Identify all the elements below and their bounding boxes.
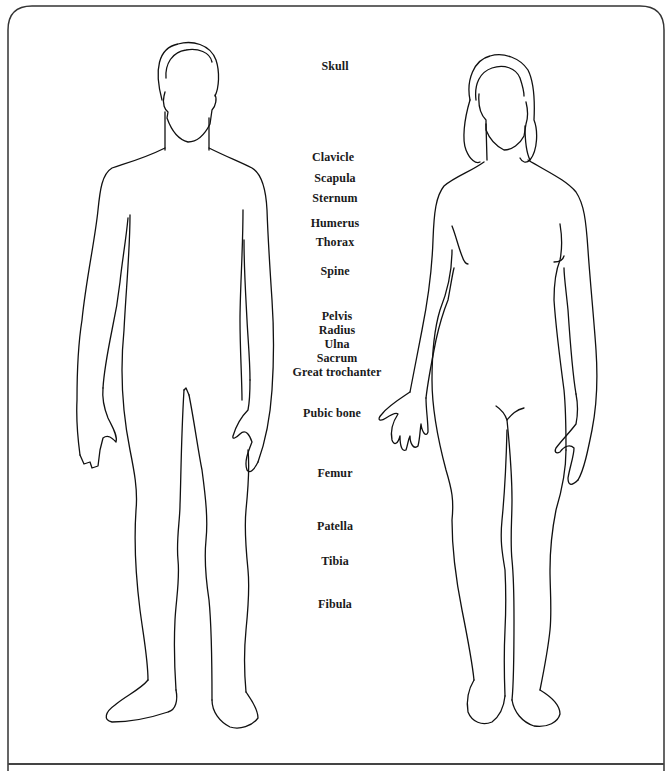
label-sacrum: Sacrum [257,351,417,365]
label-patella: Patella [255,519,415,533]
label-pubic-bone: Pubic bone [252,406,412,420]
label-fibula: Fibula [255,597,415,611]
label-great-trochanter: Great trochanter [257,365,417,379]
label-pelvis: Pelvis [257,309,417,323]
label-ulna: Ulna [257,337,417,351]
label-skull: Skull [255,59,415,73]
label-humerus: Humerus [255,216,415,230]
female-body-outline [0,0,672,771]
label-thorax: Thorax [255,235,415,249]
label-sternum: Sternum [255,191,415,205]
label-spine: Spine [255,264,415,278]
label-scapula: Scapula [255,171,415,185]
label-femur: Femur [255,466,415,480]
label-tibia: Tibia [255,554,415,568]
label-radius: Radius [257,323,417,337]
label-clavicle: Clavicle [253,150,413,164]
